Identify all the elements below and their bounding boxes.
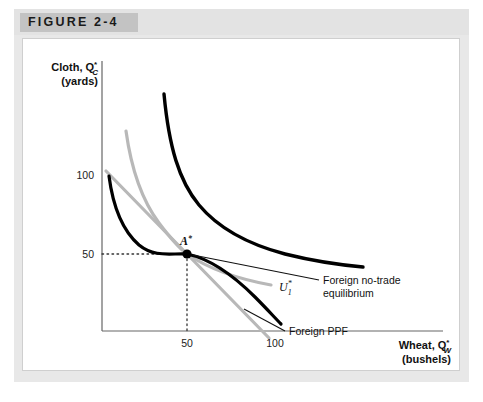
point-a-letter: A <box>179 234 188 248</box>
equilibrium-callout-line1: Foreign no-trade <box>323 274 401 286</box>
x-tick-label-100: 100 <box>266 337 284 349</box>
y-axis-unit-label: (yards) <box>61 75 98 87</box>
x-axis-title-text: Wheat, Q <box>399 339 447 351</box>
y-axis-title: Cloth, Q*C (yards) <box>51 60 98 87</box>
point-a-label: A* <box>179 234 193 248</box>
y-axis-title-text: Cloth, Q <box>51 61 94 73</box>
foreign-indifference-curve <box>126 131 271 285</box>
figure-title: FIGURE 2-4 <box>28 15 119 29</box>
chart-svg: 100 50 50 100 Cloth, Q*C (yards) Wheat, … <box>23 39 460 371</box>
axes-group <box>102 61 443 331</box>
ppf-callout-label: Foreign PPF <box>289 325 348 337</box>
indifference-curve-subscript: 1 <box>288 288 292 297</box>
y-tick-label-50: 50 <box>82 248 94 260</box>
indifference-curve-label: U*1 <box>279 279 292 297</box>
y-tick-label-100: 100 <box>76 169 94 181</box>
x-axis-unit-label: (bushels) <box>402 353 451 365</box>
indifference-curve-star: * <box>288 279 292 288</box>
equilibrium-callout-line2: equilibrium <box>323 287 374 299</box>
plot-card: 100 50 50 100 Cloth, Q*C (yards) Wheat, … <box>22 38 460 371</box>
point-a-star: * <box>188 234 193 243</box>
equilibrium-point-marker <box>182 249 191 258</box>
x-axis-title: Wheat, Q*W (bushels) <box>399 338 453 365</box>
guide-lines-group <box>102 254 187 331</box>
figure-page: FIGURE 2-4 <box>0 0 483 402</box>
x-tick-label-50: 50 <box>181 337 193 349</box>
higher-indifference-curve <box>164 94 363 267</box>
